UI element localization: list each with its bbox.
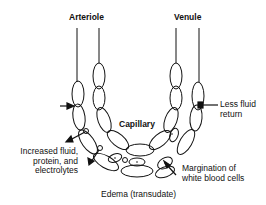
venule-outer-wall-cells: [168, 82, 204, 157]
fluid-out-arrow-icon: [66, 132, 85, 142]
arteriole-inner-wall-cells: [93, 63, 132, 153]
inflow-arrow-icon: [60, 103, 74, 109]
capillary-wall-cells: [121, 144, 154, 177]
increased-fluid-label: Increased fluid, protein, and electrolyt…: [16, 147, 78, 176]
less-fluid-return-label: Less fluid return: [220, 100, 256, 119]
margination-label: Margination of white blood cells: [182, 164, 244, 183]
arteriole-label: Arteriole: [69, 13, 104, 23]
edema-label: Edema (transudate): [101, 190, 176, 200]
venule-label: Venule: [174, 13, 201, 23]
less-return-arrow-icon: [198, 102, 218, 108]
arteriole-outer-wall-cells: [71, 81, 121, 174]
capillary-label: Capillary: [119, 120, 155, 130]
